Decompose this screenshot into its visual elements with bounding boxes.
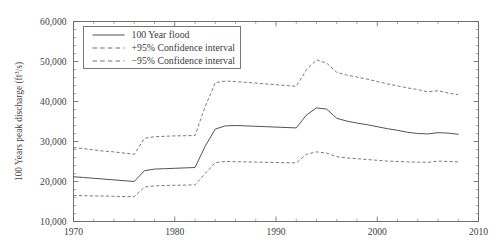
y-tick-label: 30,000	[40, 136, 67, 147]
chart-legend: 100 Year flood+95% Confidence interval−9…	[84, 27, 241, 69]
legend-item-label: −95% Confidence interval	[132, 55, 236, 66]
y-tick-label: 40,000	[40, 96, 67, 107]
x-tick-label: 1980	[165, 226, 184, 237]
figure-container: 10,00020,00030,00040,00050,00060,000 197…	[0, 0, 500, 252]
y-tick-label: 20,000	[40, 176, 67, 187]
y-axis-title-text: 100 Years peak discharge (ft3/s)	[13, 62, 25, 181]
y-tick-label: 60,000	[40, 16, 67, 27]
x-tick-label: 2010	[469, 226, 488, 237]
legend-item-label: +95% Confidence interval	[132, 42, 236, 53]
y-tick-label: 10,000	[40, 216, 67, 227]
x-tick-label: 1990	[266, 226, 285, 237]
y-tick-label: 50,000	[40, 56, 67, 67]
x-tick-label: 1970	[64, 226, 83, 237]
x-tick-label: 2000	[368, 226, 387, 237]
line-chart: 10,00020,00030,00040,00050,00060,000 197…	[0, 0, 500, 252]
y-axis-title: 100 Years peak discharge (ft3/s)	[13, 62, 25, 181]
legend-item-label: 100 Year flood	[132, 29, 190, 40]
